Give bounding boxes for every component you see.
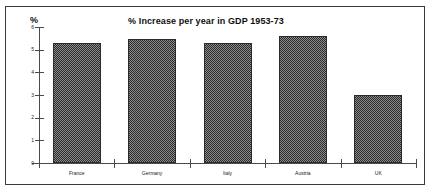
- y-axis-tick-label: 3: [25, 93, 34, 98]
- x-axis-category-label: Italy: [190, 170, 265, 176]
- y-axis-tick: [35, 50, 44, 51]
- bar-fill-pattern: [355, 96, 401, 162]
- y-axis-tick-label: 0: [25, 161, 34, 166]
- x-axis-tick: [114, 159, 115, 168]
- x-axis-category-label: France: [39, 170, 114, 176]
- y-axis-tick: [35, 95, 44, 96]
- x-axis-tick: [39, 159, 40, 168]
- y-axis-tick-label: 2: [25, 115, 34, 120]
- bar: [279, 36, 327, 163]
- bar: [53, 43, 101, 163]
- y-axis-tick: [35, 118, 44, 119]
- bar-fill-pattern: [54, 44, 100, 162]
- bar: [204, 43, 252, 163]
- bar-chart: % % Increase per year in GDP 1953-73 654…: [6, 7, 426, 186]
- chart-page: % % Increase per year in GDP 1953-73 654…: [0, 0, 439, 196]
- y-axis-tick: [35, 72, 44, 73]
- y-axis-tick-label: 5: [25, 47, 34, 52]
- x-axis-category-label: Austria: [265, 170, 340, 176]
- bar-fill-pattern: [280, 37, 326, 162]
- y-axis-tick-label: 1: [25, 138, 34, 143]
- y-axis-tick: [35, 140, 44, 141]
- bar-fill-pattern: [129, 40, 175, 162]
- x-axis-tick: [416, 159, 417, 168]
- x-axis-tick: [190, 159, 191, 168]
- x-axis-tick: [265, 159, 266, 168]
- bar: [354, 95, 402, 163]
- bar: [128, 39, 176, 163]
- chart-title: % Increase per year in GDP 1953-73: [46, 16, 366, 26]
- y-axis-tick-label: 6: [25, 25, 34, 30]
- chart-frame-border: % % Increase per year in GDP 1953-73 654…: [5, 6, 425, 185]
- x-axis-line: [32, 163, 416, 164]
- x-axis-category-label: UK: [341, 170, 416, 176]
- y-axis-tick: [35, 27, 44, 28]
- y-axis-tick-label: 4: [25, 70, 34, 75]
- bar-fill-pattern: [205, 44, 251, 162]
- x-axis-category-label: Germany: [114, 170, 189, 176]
- x-axis-tick: [341, 159, 342, 168]
